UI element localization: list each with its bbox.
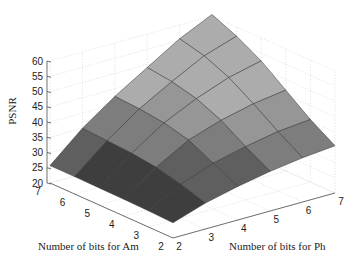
ph-tick-label: 7 — [338, 196, 344, 207]
z-axis-label: PSNR — [6, 97, 18, 125]
am-tick-label: 2 — [158, 241, 164, 252]
z-tick-label: 55 — [32, 71, 44, 82]
ph-tick-label: 5 — [273, 214, 279, 225]
am-tick-label: 4 — [109, 219, 115, 230]
am-tick-label: 6 — [60, 197, 66, 208]
am-tick-label: 5 — [84, 208, 90, 219]
ph-tick-label: 2 — [176, 241, 182, 252]
z-tick-label: 45 — [32, 101, 44, 112]
z-tick-label: 30 — [32, 147, 44, 158]
surface-plot: 202530354045505560234567234567 — [0, 0, 360, 267]
z-tick-label: 40 — [32, 117, 44, 128]
z-tick-label: 25 — [32, 162, 44, 173]
z-tick-label: 35 — [32, 132, 44, 143]
surface-chart: 202530354045505560234567234567 PSNR Numb… — [0, 0, 360, 267]
am-tick-label: 7 — [35, 186, 41, 197]
ph-axis-label: Number of bits for Ph — [229, 240, 326, 252]
ph-tick-label: 6 — [306, 205, 312, 216]
z-tick-label: 50 — [32, 86, 44, 97]
ph-tick-label: 4 — [241, 223, 247, 234]
ph-tick-label: 3 — [209, 232, 215, 243]
am-axis-label: Number of bits for Am — [38, 240, 139, 252]
z-tick-label: 60 — [32, 56, 44, 67]
